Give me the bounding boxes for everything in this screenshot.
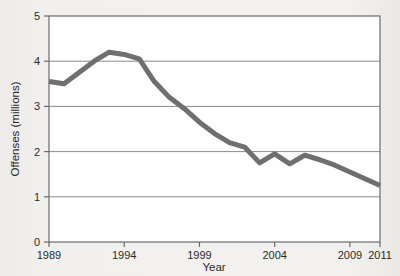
y-tick-label-0: 0 xyxy=(34,236,40,248)
y-axis-ticks xyxy=(44,16,49,242)
x-tick-label-1989: 1989 xyxy=(37,249,61,261)
y-tick-label-4: 4 xyxy=(34,55,40,67)
y-tick-label-2: 2 xyxy=(34,146,40,158)
line-chart: 198919941999200420092011 012345 Year Off… xyxy=(0,0,400,276)
y-tick-label-5: 5 xyxy=(34,10,40,22)
x-axis-title: Year xyxy=(202,261,225,273)
x-tick-label-2004: 2004 xyxy=(262,249,286,261)
x-tick-label-2011: 2011 xyxy=(368,249,392,261)
x-tick-label-1994: 1994 xyxy=(112,249,136,261)
chart-figure: 198919941999200420092011 012345 Year Off… xyxy=(0,0,400,276)
plot-area-background xyxy=(49,16,380,242)
y-tick-label-3: 3 xyxy=(34,100,40,112)
x-tick-label-2009: 2009 xyxy=(338,249,362,261)
y-axis-title: Offenses (millions) xyxy=(9,81,21,176)
x-axis-ticks xyxy=(49,242,380,247)
x-axis-tick-labels: 198919941999200420092011 xyxy=(37,249,392,261)
y-axis-tick-labels: 012345 xyxy=(34,10,40,248)
x-tick-label-1999: 1999 xyxy=(187,249,211,261)
y-tick-label-1: 1 xyxy=(34,191,40,203)
